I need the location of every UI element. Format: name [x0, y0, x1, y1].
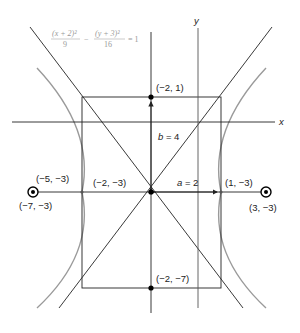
eq-den2: 16	[104, 40, 112, 49]
point-right-vertex	[219, 190, 222, 193]
label-center: (−2, −3)	[93, 177, 126, 188]
label-top: (−2, 1)	[156, 82, 184, 93]
label-a: a = 2	[177, 177, 198, 188]
label-b: b = 4	[158, 131, 179, 142]
label-right-vertex: (1, −3)	[225, 177, 253, 188]
eq-den1: 9	[63, 40, 67, 49]
point-center	[148, 189, 153, 194]
x-axis-label: x	[278, 116, 285, 127]
label-right-focus: (3, −3)	[249, 202, 277, 213]
hyperbola-left-branch	[37, 68, 84, 308]
eq-rhs: = 1	[128, 35, 139, 44]
point-left-vertex	[80, 190, 83, 193]
hyperbola-right-branch	[219, 68, 266, 308]
eq-minus: −	[84, 35, 89, 44]
label-left-focus: (−7, −3)	[19, 200, 52, 211]
point-bottom	[148, 285, 153, 290]
asymptote-1	[30, 27, 243, 308]
equation: (x + 2)² 9 − (y + 3)² 16 = 1	[51, 29, 139, 49]
eq-num1: (x + 2)²	[52, 29, 77, 38]
asymptote-2	[59, 27, 272, 308]
eq-num2: (y + 3)²	[95, 29, 120, 38]
right-focus-icon	[261, 187, 271, 197]
label-left-vertex: (−5, −3)	[36, 173, 69, 184]
hyperbola-diagram: (x + 2)² 9 − (y + 3)² 16 = 1 y x (−2, 1)…	[0, 0, 300, 333]
left-focus-icon	[28, 187, 38, 197]
y-axis-label: y	[193, 15, 200, 26]
point-top	[148, 94, 153, 99]
label-bottom: (−2, −7)	[156, 273, 189, 284]
